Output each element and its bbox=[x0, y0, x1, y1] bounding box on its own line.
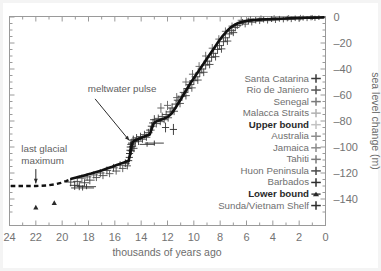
x-tick-label: 8 bbox=[217, 231, 223, 243]
legend-label: Senegal bbox=[273, 96, 309, 107]
annotation-arrow-line bbox=[95, 99, 129, 141]
annotation-text: meltwater pulse bbox=[88, 83, 157, 94]
data-point bbox=[162, 123, 169, 133]
lower-bound-triangle bbox=[52, 200, 57, 205]
data-point bbox=[212, 53, 220, 61]
data-point bbox=[218, 45, 226, 53]
lgm-dashed-curve bbox=[11, 179, 72, 186]
annotation: last glacialmaximum bbox=[21, 143, 67, 183]
y-tick-label: –80 bbox=[334, 115, 352, 127]
data-point bbox=[229, 29, 237, 36]
x-tick-label: 0 bbox=[322, 231, 328, 243]
legend-label: Lower bound bbox=[248, 188, 309, 199]
legend-item[interactable]: Sunda/Vietnam Shelf bbox=[218, 200, 321, 211]
x-tick-label: 12 bbox=[161, 231, 173, 243]
x-tick-label: 22 bbox=[30, 231, 42, 243]
y-tick-label: 0 bbox=[334, 11, 340, 23]
y-axis-title: sea level change (m) bbox=[370, 72, 381, 169]
legend-label: Barbados bbox=[268, 176, 310, 187]
legend-label: Rio de Janiero bbox=[247, 84, 309, 95]
legend-item[interactable]: Senegal bbox=[273, 96, 320, 107]
y-axis-tick-labels: 0–20–40–60–80–100–120–140 bbox=[334, 11, 358, 205]
legend-label: Australia bbox=[271, 130, 309, 141]
lower-bound-triangles bbox=[33, 200, 57, 209]
legend-label: Malacca Straits bbox=[243, 107, 309, 118]
legend-item[interactable]: Tahiti bbox=[286, 153, 320, 164]
annotation-arrow-head bbox=[34, 179, 38, 184]
legend-item[interactable]: Barbados bbox=[268, 176, 321, 187]
chart-legend: Santa CatarinaRio de JanieroSenegalMalac… bbox=[218, 73, 321, 211]
legend-label: Santa Catarina bbox=[244, 73, 309, 84]
x-tick-label: 6 bbox=[243, 231, 249, 243]
legend-label: Tahiti bbox=[286, 153, 309, 164]
data-point bbox=[170, 124, 177, 135]
x-tick-label: 4 bbox=[270, 231, 276, 243]
legend-item[interactable]: Upper bound bbox=[249, 119, 321, 130]
x-tick-label: 10 bbox=[188, 231, 200, 243]
data-point bbox=[145, 141, 164, 146]
y-tick-label: –20 bbox=[334, 37, 352, 49]
y-tick-label: –140 bbox=[334, 193, 358, 205]
data-point bbox=[157, 103, 164, 113]
legend-item[interactable]: Australia bbox=[271, 130, 321, 141]
x-axis-tick-labels: 242220181614121086420 bbox=[3, 231, 328, 243]
x-tick-label: 14 bbox=[135, 231, 147, 243]
data-point bbox=[206, 61, 214, 69]
annotation-text: maximum bbox=[21, 155, 63, 166]
chart-annotations: meltwater pulselast glacialmaximum bbox=[21, 83, 157, 183]
x-tick-label: 16 bbox=[109, 231, 121, 243]
sea-level-chart: 242220181614121086420 0–20–40–60–80–100–… bbox=[3, 3, 381, 271]
legend-label: Jamaica bbox=[273, 142, 310, 153]
data-point bbox=[224, 37, 232, 45]
legend-item[interactable]: Santa Catarina bbox=[244, 73, 320, 84]
legend-item[interactable]: Malacca Straits bbox=[243, 107, 321, 118]
annotation-text: last glacial bbox=[21, 143, 67, 154]
y-tick-label: –40 bbox=[334, 63, 352, 75]
x-tick-label: 18 bbox=[82, 231, 94, 243]
x-tick-label: 24 bbox=[3, 231, 15, 243]
legend-item[interactable]: Lower bound bbox=[248, 188, 320, 199]
legend-label: Upper bound bbox=[249, 119, 309, 130]
x-axis-title: thousands of years ago bbox=[112, 246, 221, 258]
legend-label: Huon Peninsula bbox=[241, 165, 310, 176]
y-tick-label: –120 bbox=[334, 167, 358, 179]
x-tick-label: 20 bbox=[56, 231, 68, 243]
lower-bound-triangle bbox=[33, 205, 38, 210]
legend-item[interactable]: Jamaica bbox=[273, 142, 321, 153]
legend-item[interactable]: Huon Peninsula bbox=[241, 165, 321, 176]
figure-container: 242220181614121086420 0–20–40–60–80–100–… bbox=[0, 0, 381, 271]
legend-label: Sunda/Vietnam Shelf bbox=[218, 200, 309, 211]
data-point bbox=[77, 184, 96, 189]
x-tick-label: 2 bbox=[296, 231, 302, 243]
legend-item[interactable]: Rio de Janiero bbox=[247, 84, 321, 95]
y-tick-label: –100 bbox=[334, 141, 358, 153]
y-tick-label: –60 bbox=[334, 89, 352, 101]
annotation: meltwater pulse bbox=[88, 83, 157, 140]
